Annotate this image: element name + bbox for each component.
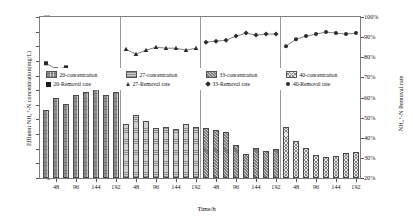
bar-20-96h — [73, 95, 79, 178]
removal-rate-line-40 — [286, 32, 356, 46]
bar-40-48h — [293, 141, 299, 178]
legend-swatch-20-icon — [46, 71, 57, 78]
removal-rate-line-33 — [206, 33, 276, 42]
bar-20-72h — [63, 104, 69, 178]
x-axis-tick-mark — [316, 179, 317, 182]
removal-rate-point-40-24h — [284, 44, 288, 48]
y-axis-right-tick-mark — [361, 98, 364, 99]
bar-33-72h — [223, 132, 229, 178]
legend-marker-triangle-icon — [126, 82, 130, 86]
bar-27-192h — [193, 127, 199, 178]
chart-legend: 20-concentration 20-Removal rate 27-conc… — [40, 68, 360, 90]
y-axis-right-tick-label: 60% — [364, 94, 398, 101]
x-axis-tick-label: 48 — [125, 183, 147, 190]
x-axis-tick-mark — [76, 179, 77, 182]
x-axis-tick-label: 96 — [225, 183, 247, 190]
removal-rate-point-33-192h — [274, 32, 279, 37]
bar-40-96h — [313, 155, 319, 178]
legend-label-40-removal: 40-Removal rate — [293, 81, 330, 87]
x-axis-tick-label: 144 — [85, 183, 107, 190]
legend-label-27-removal: 27-Removal rate — [133, 81, 170, 87]
legend-label-40-concentration: 40-concentration — [300, 72, 338, 78]
plot-area — [39, 16, 361, 179]
bar-33-24h — [203, 128, 209, 178]
removal-rate-point-33-24h — [204, 40, 209, 45]
x-axis-tick-mark — [236, 179, 237, 182]
y-axis-right-tick-label: 100% — [364, 13, 398, 20]
removal-rate-point-33-72h — [224, 38, 229, 43]
bar-33-96h — [233, 145, 239, 178]
removal-rate-point-40-168h — [344, 32, 348, 36]
x-axis-tick-mark — [196, 179, 197, 182]
x-axis-tick-mark — [136, 179, 137, 182]
x-axis-tick-mark — [356, 179, 357, 182]
bar-27-48h — [133, 115, 139, 178]
x-axis-tick-label: 96 — [305, 183, 327, 190]
bar-27-120h — [163, 127, 169, 178]
bar-20-144h — [93, 89, 99, 178]
removal-rate-point-40-96h — [314, 32, 318, 36]
legend-item-33-concentration: 33-concentration — [206, 71, 280, 78]
legend-item-27-concentration: 27-concentration — [126, 71, 200, 78]
bar-33-48h — [213, 130, 219, 178]
legend-label-33-concentration: 33-concentration — [220, 72, 258, 78]
legend-item-20-removal: 20-Removal rate — [46, 81, 120, 87]
bar-20-168h — [103, 95, 109, 178]
x-axis-tick-label: 96 — [65, 183, 87, 190]
y-axis-right-tick-label: 40% — [364, 134, 398, 141]
legend-label-20-concentration: 20-concentration — [60, 72, 98, 78]
y-axis-right-tick-mark — [361, 178, 364, 179]
legend-group-33: 33-concentration 33-Removal rate — [200, 68, 280, 90]
bar-40-168h — [343, 153, 349, 178]
y-axis-right-tick-label: 70% — [364, 73, 398, 80]
bar-40-144h — [333, 156, 339, 178]
x-axis-tick-mark — [256, 179, 257, 182]
chart-container: Effluent NH₄⁺-N concentration(mg/L) NH₄⁺… — [0, 0, 413, 221]
legend-marker-diamond-icon — [205, 81, 211, 87]
x-axis-tick-label: 192 — [185, 183, 207, 190]
x-axis-tick-label: 48 — [205, 183, 227, 190]
legend-marker-circle-icon — [286, 82, 290, 86]
removal-rate-point-27-48h — [134, 52, 139, 56]
y-axis-right-tick-mark — [361, 57, 364, 58]
y-axis-right-tick-label: 20% — [364, 174, 398, 181]
x-axis-tick-label: 144 — [165, 183, 187, 190]
group-separator — [200, 17, 201, 178]
legend-swatch-40-icon — [286, 71, 297, 78]
x-axis-tick-mark — [96, 179, 97, 182]
bar-33-192h — [273, 149, 279, 178]
bar-27-168h — [183, 124, 189, 178]
group-separator — [120, 17, 121, 178]
removal-rate-point-40-72h — [304, 34, 308, 38]
removal-rate-line-27 — [126, 47, 196, 54]
bar-27-24h — [123, 124, 129, 178]
x-axis-tick-mark — [56, 179, 57, 182]
legend-label-33-removal: 33-Removal rate — [213, 81, 250, 87]
bar-40-120h — [323, 157, 329, 178]
x-axis-tick-label: 48 — [45, 183, 67, 190]
removal-rate-point-33-144h — [254, 33, 259, 38]
legend-marker-square-icon — [46, 82, 51, 87]
legend-swatch-27-icon — [126, 71, 137, 78]
x-axis-tick-mark — [156, 179, 157, 182]
legend-item-27-removal: 27-Removal rate — [126, 81, 200, 87]
removal-rate-point-33-96h — [234, 34, 239, 39]
x-axis-tick-label: 144 — [245, 183, 267, 190]
y-axis-right-tick-label: 80% — [364, 53, 398, 60]
y-axis-right-tick-mark — [361, 158, 364, 159]
x-axis-tick-label: 192 — [345, 183, 367, 190]
removal-rate-point-40-120h — [324, 30, 328, 34]
removal-rate-point-27-144h — [174, 46, 179, 50]
removal-rate-point-33-120h — [244, 31, 249, 36]
y-axis-right-tick-mark — [361, 138, 364, 139]
removal-rate-point-40-144h — [334, 31, 338, 35]
y-axis-right-tick-label: 30% — [364, 154, 398, 161]
y-axis-right-tick-label: 90% — [364, 33, 398, 40]
y-axis-right-tick-mark — [361, 37, 364, 38]
bar-27-72h — [143, 121, 149, 178]
x-axis-title: Time/h — [0, 205, 413, 212]
removal-rate-point-27-96h — [154, 45, 159, 49]
bar-33-120h — [243, 154, 249, 178]
bar-27-144h — [173, 129, 179, 178]
y-axis-right-tick-mark — [361, 77, 364, 78]
